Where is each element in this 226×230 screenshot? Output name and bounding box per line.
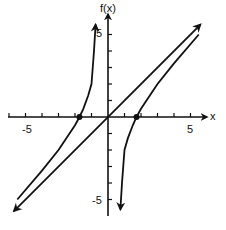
right-branch-curve — [120, 35, 198, 210]
axes — [8, 14, 207, 216]
left-branch-curve — [17, 25, 95, 200]
asymptote-line — [14, 25, 200, 211]
function-graph: f(x) x -5 5 5 -5 — [0, 0, 226, 230]
plot-area — [0, 0, 226, 230]
series — [14, 25, 200, 211]
y-axis-label: f(x) — [100, 3, 116, 14]
x-tick-label-neg5: -5 — [22, 124, 32, 135]
y-tick-label-neg5: -5 — [92, 195, 102, 206]
root-point — [76, 114, 82, 120]
x-axis-label: x — [210, 111, 216, 122]
y-tick-label-pos5: 5 — [96, 28, 102, 39]
root-point — [134, 114, 140, 120]
x-tick-label-pos5: 5 — [187, 124, 193, 135]
